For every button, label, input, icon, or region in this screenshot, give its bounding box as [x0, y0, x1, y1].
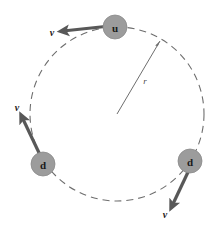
particle-d-right-label: d	[187, 156, 193, 168]
radius-label: r	[143, 76, 147, 86]
diagram-canvas: r v v v u d d	[0, 0, 214, 225]
physics-diagram-svg: r v v v u d d	[0, 0, 214, 225]
velocity-vector-d-left	[22, 117, 41, 157]
radius-line	[117, 41, 160, 114]
velocity-label-u: v	[50, 27, 55, 38]
particle-d-right[interactable]: d	[178, 149, 202, 173]
radius-tip-arrow-icon	[155, 41, 160, 46]
velocity-label-d-left: v	[15, 102, 20, 113]
velocity-vector-d-right	[172, 170, 189, 206]
particle-d-left[interactable]: d	[31, 152, 55, 176]
velocity-label-d-right: v	[163, 209, 168, 220]
particle-d-left-label: d	[40, 159, 46, 171]
particle-u-label: u	[112, 22, 118, 34]
particle-u[interactable]: u	[103, 15, 127, 39]
